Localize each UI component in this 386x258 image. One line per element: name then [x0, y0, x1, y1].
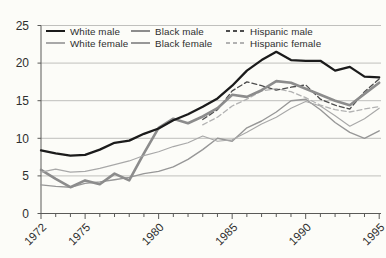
x-tick-label-1995: 1995 [360, 221, 386, 248]
y-tick-label-25: 25 [16, 19, 30, 33]
chart-legend: White maleWhite femaleBlack maleBlack fe… [46, 25, 321, 49]
series-line-black-male [41, 81, 379, 187]
legend-item-black-male: Black male [131, 25, 226, 37]
legend-label: White male [70, 26, 120, 37]
chart-container: 0510152025197219751980198519901995 White… [0, 0, 386, 258]
y-tick-label-15: 15 [16, 94, 30, 108]
legend-label: Black female [155, 38, 212, 49]
x-tick-label-1980: 1980 [139, 221, 166, 248]
line-swatch-black-female [131, 42, 150, 44]
legend-item-hispanic-male: Hispanic male [226, 25, 321, 37]
legend-label: Hispanic female [250, 38, 321, 49]
y-tick-label-10: 10 [16, 132, 30, 146]
dashed-line-swatch-hispanic-female [226, 42, 245, 44]
series-line-white-male [41, 52, 379, 156]
line-swatch-white-female [46, 42, 65, 44]
line-swatch-white-male [46, 30, 65, 32]
x-tick-label-1972: 1972 [22, 221, 49, 248]
legend-label: Black male [155, 26, 204, 37]
legend-item-white-female: White female [46, 37, 131, 49]
y-tick-label-0: 0 [22, 207, 29, 221]
legend-item-black-female: Black female [131, 37, 226, 49]
y-tick-label-20: 20 [16, 56, 30, 70]
y-tick-label-5: 5 [22, 169, 29, 183]
x-tick-label-1975: 1975 [66, 221, 93, 248]
x-tick-label-1985: 1985 [213, 221, 240, 248]
chart-screenshot: { "chart_data": { "type": "line", "title… [0, 0, 386, 258]
x-tick-label-1990: 1990 [287, 221, 314, 248]
legend-label: Hispanic male [250, 26, 313, 37]
dashed-line-swatch-hispanic-male [226, 30, 245, 32]
legend-item-white-male: White male [46, 25, 131, 37]
legend-item-hispanic-female: Hispanic female [226, 37, 321, 49]
legend-label: White female [70, 38, 128, 49]
line-swatch-black-male [131, 30, 150, 33]
